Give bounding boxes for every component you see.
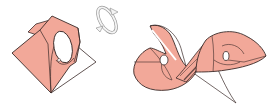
turn-over-arrow-icon xyxy=(94,4,120,35)
left-fold-figure xyxy=(12,16,96,93)
right-spiral-figure xyxy=(134,25,266,103)
origami-diagram xyxy=(0,0,271,112)
